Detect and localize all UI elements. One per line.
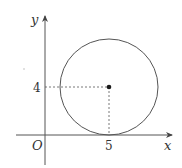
coordinate-diagram: y x O 4 5 xyxy=(0,0,182,168)
y-axis-label: y xyxy=(30,12,39,27)
center-point xyxy=(107,85,112,90)
y-tick-label: 4 xyxy=(33,81,41,95)
origin-label: O xyxy=(32,138,43,153)
x-axis-label: x xyxy=(164,138,172,153)
x-tick-label: 5 xyxy=(105,139,113,153)
stray-mark xyxy=(23,68,25,70)
